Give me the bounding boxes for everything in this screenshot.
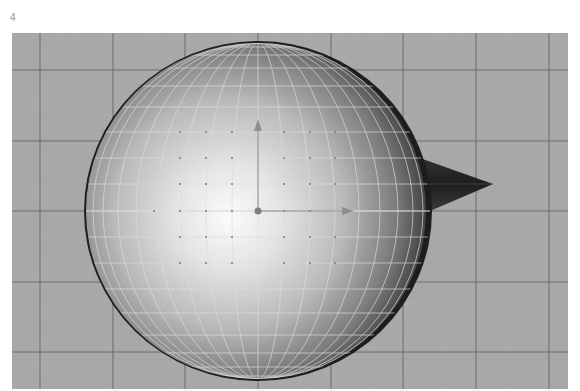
viewport-canvas[interactable] (12, 33, 568, 389)
3d-viewport[interactable] (12, 33, 568, 389)
figure-number-label: 4 (10, 13, 16, 23)
page: 4 (0, 0, 580, 391)
pivot-point-icon[interactable] (255, 208, 262, 215)
